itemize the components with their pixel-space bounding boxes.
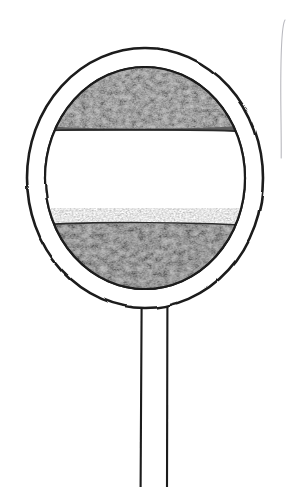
- sign-post: [140, 306, 168, 487]
- post-fill: [140, 306, 168, 487]
- sign-drawing: [0, 0, 292, 487]
- post-left-edge: [141, 308, 142, 487]
- circular-sign-face: [27, 48, 263, 308]
- illustration-canvas: A hand-drawn pencil sketch of a circular…: [0, 0, 292, 487]
- white-horizontal-bar: [38, 131, 254, 222]
